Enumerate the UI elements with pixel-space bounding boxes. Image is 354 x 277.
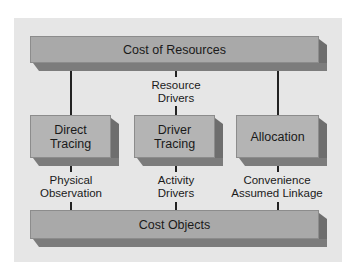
direct-tracing-box: Direct Tracing bbox=[30, 115, 119, 166]
resource-drivers-label: Resource Drivers bbox=[121, 79, 231, 105]
label-line: Assumed Linkage bbox=[222, 187, 332, 200]
physical-observation-label: Physical Observation bbox=[16, 174, 126, 200]
label-line: Resource bbox=[121, 79, 231, 92]
box-face: Allocation bbox=[236, 115, 319, 158]
connector-line bbox=[277, 71, 279, 115]
box-face: Cost of Resources bbox=[30, 36, 319, 63]
label-line: Drivers bbox=[121, 92, 231, 105]
driver-tracing-box: Driver Tracing bbox=[134, 115, 223, 166]
connector-line bbox=[70, 202, 72, 210]
method-label: Tracing bbox=[154, 137, 195, 151]
connector-line bbox=[175, 71, 177, 77]
box-face: Driver Tracing bbox=[134, 115, 215, 158]
connector-line bbox=[277, 202, 279, 210]
box-bottom bbox=[33, 63, 327, 71]
box-side bbox=[319, 118, 327, 158]
allocation-box: Allocation bbox=[236, 115, 327, 166]
activity-drivers-label: Activity Drivers bbox=[121, 174, 231, 200]
method-label: Driver bbox=[154, 123, 195, 137]
box-face: Direct Tracing bbox=[30, 115, 111, 158]
box-side bbox=[319, 39, 327, 63]
cost-of-resources-box: Cost of Resources bbox=[30, 36, 327, 71]
box-side bbox=[215, 118, 223, 158]
box-bottom bbox=[33, 158, 119, 166]
box-side bbox=[319, 213, 327, 239]
label-line: Activity bbox=[121, 174, 231, 187]
cost-objects-box: Cost Objects bbox=[30, 210, 327, 247]
box-side bbox=[111, 118, 119, 158]
connector-line bbox=[175, 106, 177, 115]
box-face: Cost Objects bbox=[30, 210, 319, 239]
connector-line bbox=[277, 166, 279, 172]
connector-line bbox=[175, 166, 177, 172]
box-bottom bbox=[33, 239, 327, 247]
method-label: Direct bbox=[50, 123, 91, 137]
method-label: Allocation bbox=[250, 130, 304, 144]
connector-line bbox=[175, 202, 177, 210]
method-label: Tracing bbox=[50, 137, 91, 151]
connector-line bbox=[70, 71, 72, 115]
box-bottom bbox=[137, 158, 223, 166]
label-line: Observation bbox=[16, 187, 126, 200]
cost-of-resources-label: Cost of Resources bbox=[123, 43, 226, 57]
convenience-assumed-linkage-label: Convenience Assumed Linkage bbox=[222, 174, 332, 200]
label-line: Convenience bbox=[222, 174, 332, 187]
connector-line bbox=[70, 166, 72, 172]
cost-objects-label: Cost Objects bbox=[139, 218, 211, 232]
label-line: Drivers bbox=[121, 187, 231, 200]
label-line: Physical bbox=[16, 174, 126, 187]
box-bottom bbox=[239, 158, 327, 166]
